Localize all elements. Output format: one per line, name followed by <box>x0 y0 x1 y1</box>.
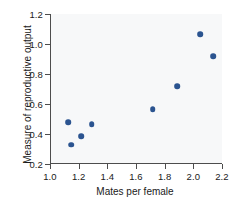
y-axis-label: Measure of reproductive output <box>22 15 33 175</box>
data-point <box>89 121 95 127</box>
data-point <box>174 83 180 89</box>
plot-area <box>50 14 222 164</box>
x-axis-tick <box>107 164 108 169</box>
y-axis-tick <box>45 14 50 15</box>
y-axis-tick <box>45 44 50 45</box>
y-axis-tick <box>45 134 50 135</box>
x-axis-tick <box>193 164 194 169</box>
data-point <box>78 133 84 139</box>
y-axis-tick <box>45 104 50 105</box>
data-point <box>150 106 156 112</box>
data-point <box>210 53 216 59</box>
x-axis-tick-label: 2.2 <box>202 171 236 182</box>
data-point <box>65 119 71 125</box>
x-axis-label: Mates per female <box>0 186 236 197</box>
data-point <box>68 142 74 148</box>
x-axis-tick <box>50 164 51 169</box>
x-axis-tick <box>136 164 137 169</box>
x-axis-tick <box>222 164 223 169</box>
data-point <box>197 31 203 37</box>
x-axis-tick <box>79 164 80 169</box>
y-axis-tick <box>45 74 50 75</box>
x-axis-tick <box>165 164 166 169</box>
scatter-chart-figure: 0.20.40.60.81.01.21.01.21.41.61.82.02.2 … <box>0 0 236 207</box>
